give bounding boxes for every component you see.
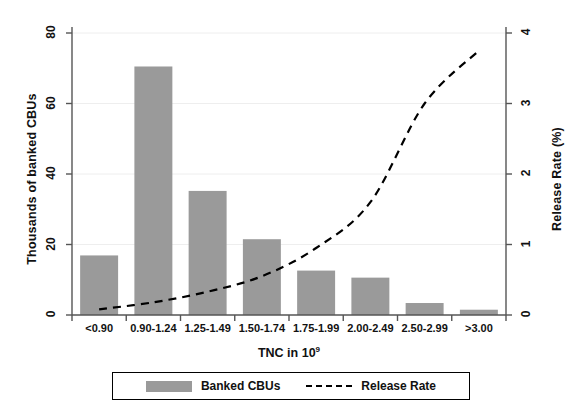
- legend-label-banked-cbus: Banked CBUs: [201, 379, 280, 393]
- x-axis-title-base: TNC in 10: [258, 346, 316, 360]
- chart-figure: Thousands of banked CBUs Release Rate (%…: [0, 0, 580, 408]
- x-axis-title-exponent: 9: [316, 345, 320, 354]
- legend-dashed-line-icon: [306, 385, 352, 387]
- x-axis-tick-label: 1.50-1.74: [235, 322, 289, 334]
- y-axis-right-tick-label: 1: [519, 231, 533, 257]
- y-axis-left-tick-label: 80: [44, 19, 58, 45]
- y-axis-left-tick-label: 40: [44, 160, 58, 186]
- y-axis-right-tick-label: 0: [519, 301, 533, 327]
- x-axis-tick-label: 0.90-1.24: [126, 322, 180, 334]
- x-axis-title: TNC in 109: [72, 345, 506, 360]
- y-axis-left-tick-label: 60: [44, 90, 58, 116]
- x-axis-tick-label: <0.90: [72, 322, 126, 334]
- legend-item-banked-cbus: Banked CBUs: [146, 379, 280, 393]
- y-axis-left-tick-label: 0: [44, 301, 58, 327]
- legend-swatch-icon: [146, 381, 192, 392]
- y-axis-left-title: Thousands of banked CBUs: [25, 79, 39, 279]
- y-axis-right-tick-label: 2: [519, 160, 533, 186]
- legend-item-release-rate: Release Rate: [306, 379, 436, 393]
- legend-label-release-rate: Release Rate: [361, 379, 436, 393]
- x-axis-tick-label: >3.00: [452, 322, 506, 334]
- y-axis-left-tick-label: 20: [44, 231, 58, 257]
- x-axis-tick-label: 2.00-2.49: [343, 322, 397, 334]
- x-axis-tick-label: 2.50-2.99: [398, 322, 452, 334]
- y-axis-right-tick-label: 3: [519, 90, 533, 116]
- x-axis-tick-label: 1.75-1.99: [289, 322, 343, 334]
- y-axis-right-tick-label: 4: [519, 19, 533, 45]
- tick-marks-group: [66, 33, 512, 321]
- x-axis-tick-label: 1.25-1.49: [181, 322, 235, 334]
- chart-legend: Banked CBUs Release Rate: [112, 372, 470, 400]
- y-axis-right-title: Release Rate (%): [550, 79, 564, 279]
